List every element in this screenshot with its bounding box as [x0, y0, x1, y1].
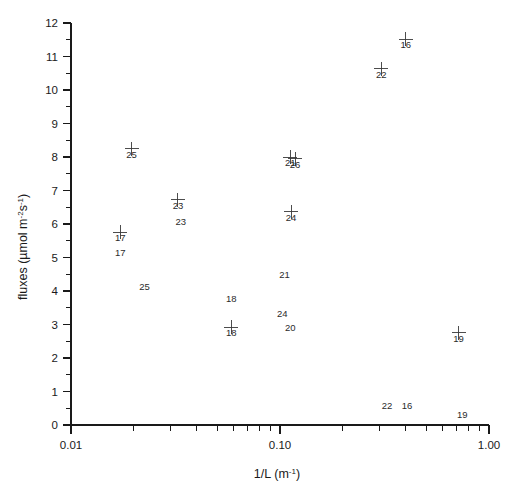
data-point-label: 18	[226, 327, 237, 338]
y-axis-title-units: µmol m	[16, 218, 30, 259]
y-axis-title: fluxes (µmol m-2s-1)	[16, 194, 30, 300]
tick-labels-layer: 01234567891011120.010.101.00	[45, 17, 500, 451]
data-point-label: 25	[126, 149, 137, 160]
annotation-label: 23	[175, 216, 186, 227]
y-tick-label: 5	[52, 252, 58, 264]
x-tick-label: 0.10	[269, 439, 291, 451]
y-axis-title-lead: fluxes (	[16, 259, 30, 300]
data-point: 18	[224, 320, 238, 338]
annotation-label: 20	[285, 322, 296, 333]
scatter-plot-figure: 01234567891011120.010.101.00 16222521262…	[0, 0, 512, 496]
annotation-label: 18	[226, 293, 237, 304]
x-axis-title-lead: 1/L (m	[254, 467, 289, 481]
data-point-label: 22	[376, 69, 387, 80]
data-markers-layer: 16222521262324171819	[113, 32, 465, 343]
data-point: 24	[284, 205, 298, 223]
x-tick-label: 1.00	[478, 439, 500, 451]
annotation-label: 16	[402, 400, 413, 411]
data-point: 23	[171, 193, 185, 211]
y-tick-label: 1	[52, 386, 58, 398]
x-axis-title: 1/L (m-1)	[254, 467, 300, 481]
data-point-label: 17	[115, 232, 126, 243]
data-point-label: 16	[401, 39, 412, 50]
plot-canvas: 01234567891011120.010.101.00 16222521262…	[0, 0, 512, 496]
data-point: 22	[374, 62, 388, 80]
annotation-label: 25	[139, 281, 150, 292]
y-tick-label: 11	[46, 51, 58, 63]
annotation-label: 21	[279, 269, 290, 280]
y-tick-label: 9	[52, 118, 58, 130]
x-axis-title-tail: )	[296, 467, 300, 481]
svg-text:1/L (m-1): 1/L (m-1)	[254, 467, 300, 481]
x-tick-label: 0.01	[60, 439, 82, 451]
data-point-label: 19	[453, 333, 464, 344]
y-tick-label: 12	[45, 17, 58, 29]
free-labels-layer: 17252118242023221619	[115, 216, 468, 420]
y-axis-title-tail: )	[16, 194, 30, 198]
y-tick-label: 6	[52, 218, 58, 230]
axes-layer	[63, 23, 489, 434]
data-point: 17	[113, 225, 127, 243]
annotation-label: 19	[457, 409, 468, 420]
data-point: 16	[399, 32, 413, 50]
y-tick-label: 2	[52, 352, 58, 364]
data-point-label: 24	[286, 212, 297, 223]
data-point-label: 23	[173, 200, 184, 211]
data-point-label: 26	[290, 159, 301, 170]
annotation-label: 17	[115, 247, 126, 258]
y-tick-label: 7	[52, 185, 58, 197]
data-point: 19	[452, 326, 466, 344]
y-tick-label: 3	[52, 319, 58, 331]
data-point: 25	[125, 142, 139, 160]
y-tick-label: 8	[52, 151, 58, 163]
annotation-label: 22	[382, 400, 393, 411]
svg-text:fluxes (µmol m-2s-1): fluxes (µmol m-2s-1)	[16, 194, 30, 300]
annotation-label: 24	[277, 308, 288, 319]
y-tick-label: 0	[52, 419, 58, 431]
y-tick-label: 10	[45, 84, 58, 96]
y-tick-label: 4	[52, 285, 59, 297]
